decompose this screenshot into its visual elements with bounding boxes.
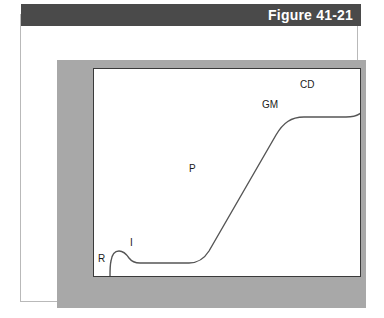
region-label-P: P [189, 163, 196, 174]
region-label-I: I [130, 237, 133, 248]
detector-response-curve [94, 69, 360, 276]
region-label-R: R [98, 253, 105, 264]
figure-header-bar: Figure 41-21 [21, 4, 361, 26]
region-label-GM: GM [262, 99, 278, 110]
plot-area: R I P GM CD [93, 68, 361, 277]
region-label-CD: CD [300, 79, 314, 90]
figure-title: Figure 41-21 [268, 6, 353, 24]
figure-frame: Output Signal Chamber Voltage R I P GM C… [20, 14, 358, 302]
